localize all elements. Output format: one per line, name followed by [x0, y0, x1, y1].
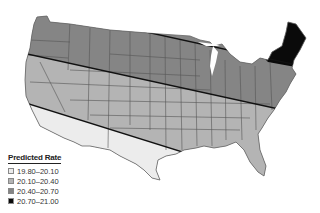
legend-item: 19.80–20.10	[8, 166, 98, 176]
legend-item: 20.40–20.70	[8, 186, 98, 196]
legend-swatch	[8, 198, 14, 204]
legend-label: 19.80–20.10	[17, 167, 59, 176]
legend-label: 20.40–20.70	[17, 187, 59, 196]
legend-label: 20.70–21.00	[17, 197, 59, 206]
legend-swatch	[8, 168, 14, 174]
legend-title: Predicted Rate	[8, 153, 61, 164]
legend-swatch	[8, 178, 14, 184]
legend-swatch	[8, 188, 14, 194]
legend-item: 20.10–20.40	[8, 176, 98, 186]
legend-label: 20.10–20.40	[17, 177, 59, 186]
legend-item: 20.70–21.00	[8, 196, 98, 206]
legend: Predicted Rate 19.80–20.10 20.10–20.40 2…	[8, 146, 98, 206]
